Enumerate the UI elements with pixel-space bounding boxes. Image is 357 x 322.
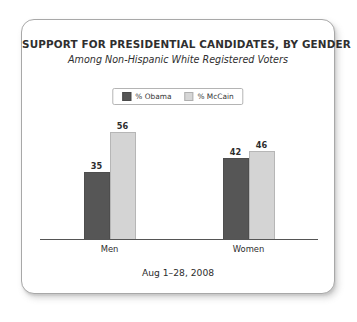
chart-footnote: Aug 1–28, 2008 (22, 267, 334, 278)
bar-wrap-women-mccain: 46 (249, 120, 275, 239)
legend-label-obama: % Obama (135, 92, 171, 101)
title-block: SUPPORT FOR PRESIDENTIAL CANDIDATES, BY … (22, 38, 334, 66)
bar-women-obama[interactable] (223, 158, 249, 239)
screenshot-stage: SUPPORT FOR PRESIDENTIAL CANDIDATES, BY … (0, 0, 357, 322)
bar-wrap-women-obama: 42 (223, 120, 249, 239)
bar-groups: 35 56 42 (40, 120, 318, 239)
bar-pair-men: 35 56 (84, 120, 136, 239)
plot-area: 35 56 42 (40, 120, 318, 240)
x-axis-label-women: Women (179, 244, 318, 254)
bar-group-women: 42 46 (179, 120, 318, 239)
x-axis-baseline (40, 239, 318, 240)
bar-pair-women: 42 46 (223, 120, 275, 239)
bar-group-men: 35 56 (40, 120, 179, 239)
bar-value-men-obama: 35 (84, 161, 110, 171)
bar-value-women-mccain: 46 (249, 140, 275, 150)
legend-swatch-icon-obama (122, 92, 131, 101)
legend-label-mccain: % McCain (197, 92, 233, 101)
bar-men-mccain[interactable] (110, 132, 136, 239)
bar-women-mccain[interactable] (249, 151, 275, 239)
bar-wrap-men-mccain: 56 (110, 120, 136, 239)
page-title: SUPPORT FOR PRESIDENTIAL CANDIDATES, BY … (22, 38, 334, 51)
chart-subtitle: Among Non-Hispanic White Registered Vote… (22, 53, 334, 66)
bar-value-men-mccain: 56 (110, 121, 136, 131)
x-axis-label-men: Men (40, 244, 179, 254)
chart-card: SUPPORT FOR PRESIDENTIAL CANDIDATES, BY … (21, 19, 335, 294)
x-axis-labels: Men Women (40, 244, 318, 254)
legend-swatch-icon-mccain (184, 92, 193, 101)
bar-men-obama[interactable] (84, 172, 110, 239)
bar-value-women-obama: 42 (223, 147, 249, 157)
bar-wrap-men-obama: 35 (84, 120, 110, 239)
legend-item-obama[interactable]: % Obama (122, 92, 171, 101)
chart-legend: % Obama % McCain (112, 88, 243, 105)
legend-item-mccain[interactable]: % McCain (184, 92, 233, 101)
